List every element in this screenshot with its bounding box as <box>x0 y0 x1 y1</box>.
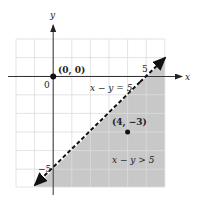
y-tick-neg5-label: −5 <box>38 164 52 174</box>
x-axis-label: x <box>185 72 190 82</box>
inequality-label: x − y > 5 <box>112 155 155 165</box>
point-test-label: (4, −3) <box>112 117 147 128</box>
y-axis-label: y <box>49 10 56 20</box>
point-origin <box>50 74 56 80</box>
line-equation-label: x − y = 5 <box>90 83 133 93</box>
point-test <box>125 130 130 135</box>
x-tick-5-label: 5 <box>142 64 148 74</box>
point-origin-label: (0, 0) <box>58 65 85 76</box>
inequality-graph: y x 0 5 −5 (0, 0) (4, −3) x − y = 5 x − … <box>0 0 198 206</box>
origin-label: 0 <box>44 80 50 90</box>
